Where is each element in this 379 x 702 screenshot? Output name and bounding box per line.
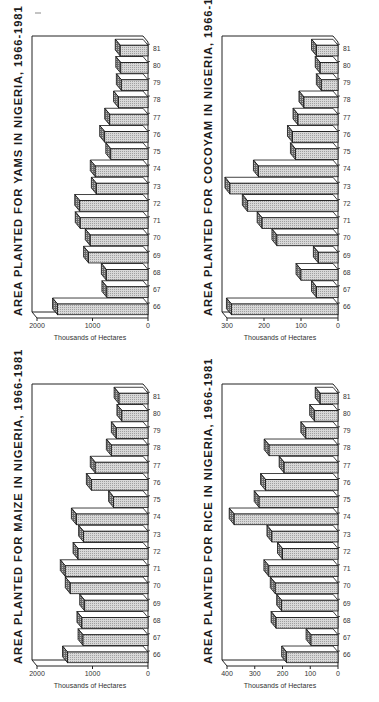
svg-text:81: 81 [153,393,161,400]
bar-78 [299,91,338,108]
svg-text:0: 0 [146,670,150,677]
bar-66 [226,298,338,315]
bar-79 [316,74,338,91]
svg-text:71: 71 [343,217,351,224]
bar-73 [91,177,148,194]
bar-chart-plot: 010002000Thousands of Hectares6667686970… [8,356,183,696]
svg-text:74: 74 [153,165,161,172]
svg-text:79: 79 [153,79,161,86]
svg-text:71: 71 [153,565,161,572]
bar-77 [279,456,338,473]
svg-text:81: 81 [343,393,351,400]
svg-text:79: 79 [343,79,351,86]
svg-text:70: 70 [343,582,351,589]
bar-78 [264,439,338,456]
bar-71 [75,212,148,229]
svg-text:0: 0 [336,670,340,677]
svg-text:69: 69 [153,600,161,607]
bar-68 [101,264,148,281]
bar-68 [296,264,338,281]
bar-81 [115,39,148,56]
bar-79 [116,74,148,91]
svg-text:67: 67 [153,286,161,293]
bar-68 [271,612,338,629]
svg-text:67: 67 [343,286,351,293]
chart-panel-rice: AREA PLANTED FOR RICE IN NIGERIA, 1966-1… [198,356,373,696]
svg-text:73: 73 [343,531,351,538]
svg-text:0: 0 [336,322,340,329]
svg-text:80: 80 [343,410,351,417]
svg-text:76: 76 [153,479,161,486]
bar-73 [225,177,338,194]
svg-text:76: 76 [343,131,351,138]
svg-text:79: 79 [153,427,161,434]
svg-text:67: 67 [343,634,351,641]
bar-72 [75,195,148,212]
bar-76 [86,474,148,491]
bar-81 [114,387,148,404]
svg-text:73: 73 [153,183,161,190]
svg-text:70: 70 [153,234,161,241]
bar-75 [290,143,338,160]
svg-text:68: 68 [153,617,161,624]
bar-70 [272,229,338,246]
svg-text:76: 76 [153,131,161,138]
bar-74 [90,160,148,177]
bar-67 [306,629,338,646]
svg-text:2000: 2000 [29,670,45,677]
svg-text:400: 400 [221,670,233,677]
svg-text:69: 69 [343,600,351,607]
svg-text:Thousands of Hectares: Thousands of Hectares [54,334,127,341]
bar-77 [105,108,148,125]
bar-79 [301,422,338,439]
svg-text:77: 77 [153,462,161,469]
svg-text:74: 74 [153,513,161,520]
svg-text:Thousands of Hectares: Thousands of Hectares [244,334,317,341]
svg-text:81: 81 [343,45,351,52]
bar-74 [71,508,148,525]
bar-72 [242,195,338,212]
bar-68 [77,612,148,629]
svg-text:2000: 2000 [29,322,45,329]
bar-66 [63,646,148,663]
svg-text:300: 300 [249,670,261,677]
svg-text:77: 77 [153,114,161,121]
svg-text:72: 72 [153,200,161,207]
bar-70 [85,229,148,246]
bar-74 [253,160,338,177]
bar-70 [65,577,148,594]
svg-text:68: 68 [343,617,351,624]
bar-69 [84,246,148,263]
svg-text:75: 75 [153,148,161,155]
bar-70 [270,577,338,594]
svg-text:78: 78 [343,96,351,103]
svg-text:70: 70 [153,582,161,589]
bar-78 [114,91,148,108]
bar-76 [287,126,338,143]
bar-75 [109,491,148,508]
svg-text:75: 75 [153,496,161,503]
svg-text:77: 77 [343,114,351,121]
bar-chart-plot: 0100200300400Thousands of Hectares666768… [198,356,373,696]
bar-75 [254,491,338,508]
svg-text:72: 72 [343,200,351,207]
svg-text:1000: 1000 [85,322,101,329]
svg-text:Thousands of Hectares: Thousands of Hectares [54,682,127,689]
svg-text:69: 69 [343,252,351,259]
bar-69 [80,594,148,611]
svg-text:67: 67 [153,634,161,641]
bar-chart-plot: 0100200300Thousands of Hectares666768697… [198,8,373,348]
bar-71 [257,212,338,229]
svg-text:Thousands of Hectares: Thousands of Hectares [244,682,317,689]
svg-text:100: 100 [295,322,307,329]
bar-77 [293,108,338,125]
bar-72 [278,543,339,560]
bar-73 [267,525,338,542]
svg-text:300: 300 [221,322,233,329]
bar-74 [229,508,338,525]
bar-67 [312,281,338,298]
svg-text:78: 78 [343,444,351,451]
bar-chart-plot: 010002000Thousands of Hectares6667686970… [8,8,183,348]
svg-text:74: 74 [343,165,351,172]
bar-79 [111,422,148,439]
